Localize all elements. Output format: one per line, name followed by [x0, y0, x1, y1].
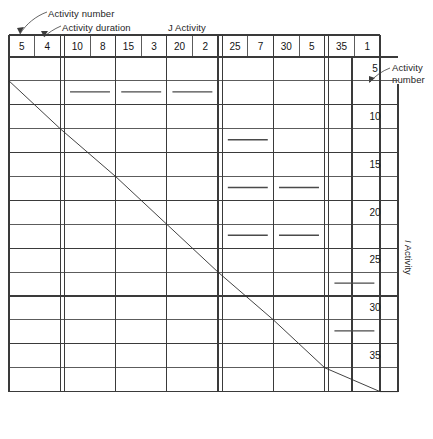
row-activity-number: 20 — [352, 208, 398, 218]
column-activity-duration: 8 — [90, 42, 116, 52]
column-activity-duration: 4 — [35, 42, 61, 52]
row-activity-number: 10 — [352, 112, 398, 122]
column-activity-duration: 1 — [354, 42, 380, 52]
row-activity-number: 15 — [352, 160, 398, 170]
row-activity-number: 5 — [352, 64, 398, 74]
grid-lines-heavy — [9, 35, 398, 392]
arrowhead-activity-number-right — [369, 76, 375, 83]
column-activity-number: 15 — [116, 42, 142, 52]
grid-lines — [9, 35, 398, 368]
column-activity-number: 10 — [64, 42, 90, 52]
column-activity-duration: 2 — [192, 42, 218, 52]
row-activity-number: 35 — [352, 351, 398, 361]
column-activity-number: 30 — [273, 42, 299, 52]
leader-activity-number — [20, 12, 47, 34]
arrowhead-activity-number — [17, 27, 24, 34]
column-activity-duration: 3 — [141, 42, 167, 52]
row-activity-number: 25 — [352, 255, 398, 265]
column-activity-duration: 7 — [248, 42, 274, 52]
diagonal-staircase — [9, 81, 398, 392]
row-activity-number: 30 — [352, 303, 398, 313]
column-activity-number: 25 — [222, 42, 248, 52]
column-activity-duration: 5 — [299, 42, 325, 52]
column-activity-number: 20 — [167, 42, 193, 52]
column-activity-number: 35 — [329, 42, 355, 52]
column-activity-number: 5 — [9, 42, 35, 52]
figure-canvas: Activity number Activity duration IJ Act… — [0, 0, 433, 439]
